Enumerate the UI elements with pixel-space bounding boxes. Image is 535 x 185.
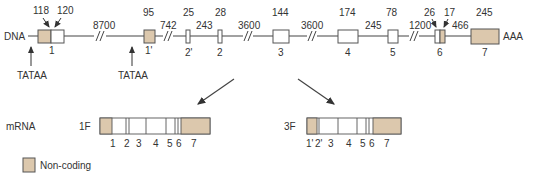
svg-text:1200: 1200 bbox=[409, 20, 432, 31]
svg-text:245: 245 bbox=[476, 7, 493, 18]
svg-text:118: 118 bbox=[33, 5, 49, 16]
isoform-3f-label: 3F bbox=[284, 121, 296, 132]
svg-text:6: 6 bbox=[176, 138, 182, 149]
svg-text:TATAA: TATAA bbox=[118, 70, 148, 81]
svg-text:3: 3 bbox=[136, 138, 142, 149]
svg-text:7: 7 bbox=[384, 138, 390, 149]
svg-text:2': 2' bbox=[185, 47, 193, 58]
polya-tail-label: AAA bbox=[503, 31, 523, 42]
svg-text:245: 245 bbox=[365, 20, 382, 31]
svg-text:243: 243 bbox=[196, 20, 213, 31]
svg-text:3: 3 bbox=[328, 138, 334, 149]
exon-6 bbox=[435, 30, 445, 43]
svg-text:2': 2' bbox=[315, 138, 323, 149]
promoter-2: TATAA bbox=[118, 47, 148, 81]
svg-text:3600: 3600 bbox=[238, 20, 261, 31]
svg-text:7: 7 bbox=[191, 138, 197, 149]
svg-text:742: 742 bbox=[160, 20, 177, 31]
svg-text:5: 5 bbox=[360, 138, 366, 149]
svg-text:4: 4 bbox=[345, 47, 351, 58]
dna-label: DNA bbox=[4, 31, 25, 42]
svg-text:25: 25 bbox=[183, 7, 195, 18]
svg-text:4: 4 bbox=[153, 138, 159, 149]
exon-1 bbox=[38, 30, 64, 43]
svg-text:120: 120 bbox=[57, 5, 74, 16]
svg-text:1': 1' bbox=[145, 45, 153, 56]
splice-arrow-1f bbox=[198, 79, 234, 104]
splice-arrow-3f bbox=[298, 79, 334, 104]
svg-text:1: 1 bbox=[49, 45, 55, 56]
svg-text:144: 144 bbox=[272, 7, 289, 18]
svg-text:466: 466 bbox=[452, 20, 469, 31]
svg-text:6: 6 bbox=[369, 138, 375, 149]
svg-text:8700: 8700 bbox=[93, 20, 116, 31]
svg-text:5: 5 bbox=[390, 47, 396, 58]
isoform-1f-exon-labels: 1 2 3 4 5 6 7 bbox=[110, 138, 197, 149]
svg-text:3600: 3600 bbox=[301, 20, 324, 31]
mrna-label: mRNA bbox=[6, 121, 36, 132]
promoter-1: TATAA bbox=[17, 47, 47, 81]
svg-text:28: 28 bbox=[215, 7, 227, 18]
svg-text:TATAA: TATAA bbox=[17, 70, 47, 81]
svg-text:17: 17 bbox=[444, 7, 456, 18]
svg-text:6: 6 bbox=[437, 47, 443, 58]
svg-text:1: 1 bbox=[110, 138, 116, 149]
exon-7 bbox=[471, 29, 499, 44]
exon-3 bbox=[273, 30, 289, 43]
svg-text:26: 26 bbox=[424, 7, 436, 18]
svg-text:78: 78 bbox=[386, 7, 398, 18]
isoform-1f-label: 1F bbox=[79, 121, 91, 132]
svg-text:1': 1' bbox=[306, 138, 314, 149]
exon-4 bbox=[338, 30, 358, 43]
legend-noncoding-swatch bbox=[23, 158, 35, 172]
isoform-3f-exon-labels: 1' 2' 3 4 5 6 7 bbox=[306, 138, 390, 149]
svg-text:4: 4 bbox=[346, 138, 352, 149]
svg-text:5: 5 bbox=[167, 138, 173, 149]
svg-text:2: 2 bbox=[124, 138, 130, 149]
svg-text:2: 2 bbox=[217, 47, 223, 58]
exon-5 bbox=[388, 30, 398, 43]
mrna-3f bbox=[307, 118, 401, 134]
svg-text:95: 95 bbox=[143, 7, 155, 18]
svg-text:174: 174 bbox=[339, 7, 356, 18]
svg-text:3: 3 bbox=[278, 47, 284, 58]
intron-size-labels: 8700 742 243 3600 3600 245 1200 466 bbox=[93, 20, 469, 31]
exon-number-labels: 1 1' 2' 2 3 4 5 6 7 bbox=[49, 45, 488, 58]
legend-noncoding-label: Non-coding bbox=[40, 160, 91, 171]
exon-2 bbox=[218, 30, 222, 43]
gene-structure-diagram: DNA AAA 118 120 95 25 28 144 174 78 26 bbox=[0, 0, 535, 185]
exon-2-prime bbox=[186, 30, 190, 43]
exon-1-prime bbox=[144, 30, 155, 43]
mrna-1f bbox=[100, 118, 210, 134]
svg-text:7: 7 bbox=[482, 47, 488, 58]
exon-size-labels: 118 120 95 25 28 144 174 78 26 17 245 bbox=[33, 5, 493, 18]
